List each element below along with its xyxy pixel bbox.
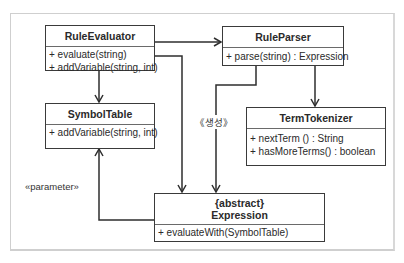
operation: + evaluateWith(SymbolTable) xyxy=(158,227,321,240)
operation: + addVariable(string, int) xyxy=(49,127,151,140)
operation: + nextTerm () : String xyxy=(250,133,382,146)
class-rule-evaluator: RuleEvaluator + evaluate(string) + addVa… xyxy=(45,25,155,71)
class-name: RuleEvaluator xyxy=(46,26,154,47)
class-stereotype: {abstract} xyxy=(155,197,324,209)
class-rule-parser: RuleParser + parse(string) : Expression xyxy=(222,26,344,66)
operation: + hasMoreTerms() : boolean xyxy=(250,146,382,159)
class-name: SymbolTable xyxy=(46,104,154,125)
class-name: Expression xyxy=(155,209,324,221)
create-stereotype-label: 《생성》 xyxy=(195,115,233,129)
operation: + evaluate(string) xyxy=(49,49,151,62)
class-header: {abstract} Expression xyxy=(155,194,324,225)
operation: + parse(string) : Expression xyxy=(226,51,340,64)
parameter-stereotype-label: «parameter» xyxy=(25,181,79,192)
class-term-tokenizer: TermTokenizer + nextTerm () : String + h… xyxy=(246,107,386,166)
operation: + addVariable(string, int) xyxy=(49,62,151,75)
class-name: TermTokenizer xyxy=(247,108,385,129)
class-symbol-table: SymbolTable + addVariable(string, int) xyxy=(45,103,155,149)
class-expression: {abstract} Expression + evaluateWith(Sym… xyxy=(154,193,325,242)
class-name: RuleParser xyxy=(223,27,343,48)
